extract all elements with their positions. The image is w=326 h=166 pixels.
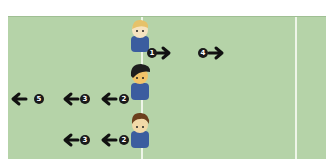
arrow-right (157, 48, 169, 58)
step-badge: 2 (119, 94, 129, 104)
blonde-player (131, 20, 149, 52)
arrow-left (103, 135, 116, 145)
step-badge: 3 (80, 94, 90, 104)
step-badge: 2 (119, 135, 129, 145)
arrow-left (103, 94, 116, 104)
arrow-right (209, 48, 222, 58)
play-diagram (0, 0, 326, 166)
brown-hair-player (131, 113, 149, 148)
step-badge: 4 (198, 48, 208, 58)
step-badge: 5 (34, 94, 44, 104)
dark-hair-player (131, 64, 150, 100)
arrow-left (65, 94, 78, 104)
arrow-left (13, 94, 26, 104)
step-badge: 3 (80, 135, 90, 145)
arrow-left (65, 135, 78, 145)
step-badge: 1 (147, 48, 157, 58)
